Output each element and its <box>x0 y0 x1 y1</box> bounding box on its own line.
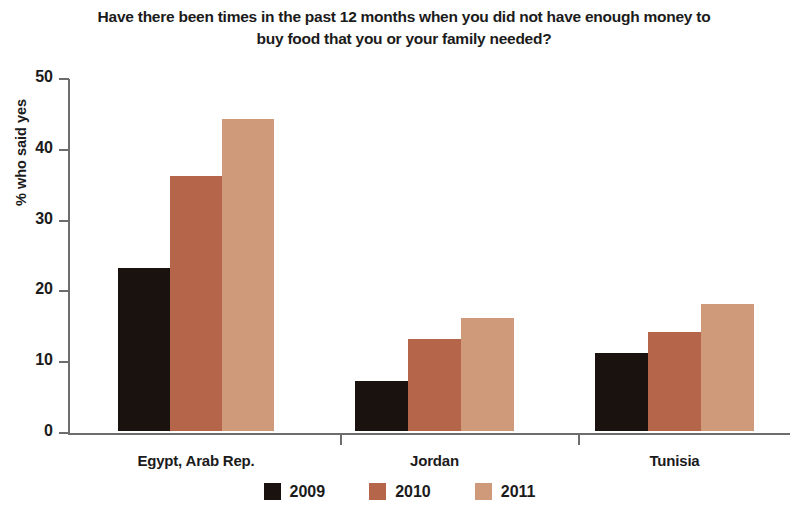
bar <box>701 304 754 431</box>
legend-swatch <box>264 483 281 500</box>
bar <box>118 268 170 431</box>
y-tick: 30 <box>59 220 69 222</box>
bar <box>355 381 408 431</box>
legend-item: 2010 <box>369 483 431 500</box>
y-tick-label: 30 <box>35 209 53 229</box>
legend-label: 2010 <box>395 483 431 500</box>
bar <box>461 318 514 431</box>
y-tick: 40 <box>59 149 69 151</box>
legend-swatch <box>475 483 492 500</box>
y-tick: 20 <box>59 290 69 292</box>
y-tick-label: 10 <box>35 350 53 370</box>
y-tick: 10 <box>59 361 69 363</box>
bar <box>408 339 461 431</box>
y-tick-label: 20 <box>35 279 53 299</box>
bar <box>648 332 701 431</box>
legend-label: 2009 <box>290 483 326 500</box>
chart-figure: Have there been times in the past 12 mon… <box>0 0 799 508</box>
bar <box>595 353 648 431</box>
y-tick: 50 <box>59 78 69 80</box>
bar <box>170 176 222 431</box>
x-axis-category-label: Jordan <box>410 452 459 469</box>
legend-item: 2011 <box>475 483 536 500</box>
x-axis-line <box>68 433 790 435</box>
y-axis-line <box>68 79 70 434</box>
legend-item: 2009 <box>264 483 326 500</box>
plot-area: 01020304050 <box>68 79 790 433</box>
chart-title: Have there been times in the past 12 mon… <box>74 6 734 50</box>
y-tick-label: 50 <box>35 67 53 87</box>
x-separator-tick <box>578 434 580 445</box>
legend-swatch <box>369 483 386 500</box>
x-axis-category-label: Egypt, Arab Rep. <box>137 452 254 469</box>
y-axis-label: % who said yes <box>13 180 29 206</box>
x-separator-tick <box>340 434 342 445</box>
legend-label: 2011 <box>501 483 536 500</box>
bar <box>222 119 274 431</box>
x-axis-category-label: Tunisia <box>650 452 700 469</box>
y-tick-label: 0 <box>44 421 53 441</box>
y-tick: 0 <box>59 432 69 434</box>
chart-legend: 200920102011 <box>0 483 799 500</box>
y-tick-label: 40 <box>35 138 53 158</box>
